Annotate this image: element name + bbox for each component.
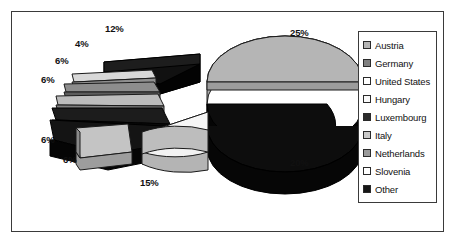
legend-label: Netherlands [375,148,425,159]
legend-label: Germany [375,58,413,69]
data-label-germany: 20% [290,157,309,168]
legend-label: Italy [375,130,392,141]
legend-swatch-icon [363,41,371,49]
legend-label: Slovenia [375,166,410,177]
legend-item-united-states[interactable]: United States [363,72,436,90]
legend-item-other[interactable]: Other [363,180,436,198]
legend-label: Other [375,184,398,195]
data-label-luxembourg: 6% [41,134,55,145]
legend-item-austria[interactable]: Austria [363,36,436,54]
data-label-other: 12% [105,23,124,34]
slice-austria-top [207,36,363,82]
data-label-slovenia: 4% [75,38,89,49]
legend-swatch-icon [363,149,371,157]
legend-label: Luxembourg [375,112,426,123]
legend-label: Austria [375,40,404,51]
legend-item-slovenia[interactable]: Slovenia [363,162,436,180]
data-label-united-states: 15% [140,177,159,188]
legend-item-luxembourg[interactable]: Luxembourg [363,108,436,126]
legend-swatch-icon [363,95,371,103]
slice-austria-band [207,82,363,90]
slice-hungary-block[interactable] [76,124,132,170]
legend-item-hungary[interactable]: Hungary [363,90,436,108]
legend-item-netherlands[interactable]: Netherlands [363,144,436,162]
legend-item-italy[interactable]: Italy [363,126,436,144]
chart-frame: 12% 4% 6% 6% 6% 6% 15% 25% 20% Austria G… [11,11,444,232]
data-label-italy: 6% [41,74,55,85]
legend-swatch-icon [363,77,371,85]
data-label-austria: 25% [290,27,309,38]
data-label-hungary: 6% [63,154,77,165]
legend-label: Hungary [375,94,410,105]
legend-item-germany[interactable]: Germany [363,54,436,72]
legend-swatch-icon [363,167,371,175]
legend-swatch-icon [363,59,371,67]
legend-swatch-icon [363,113,371,121]
legend-swatch-icon [363,131,371,139]
data-label-netherlands: 6% [55,55,69,66]
legend-label: United States [375,76,430,87]
legend: Austria Germany United States Hungary Lu… [358,31,437,203]
legend-swatch-icon [363,185,371,193]
pie-chart-screenshot: 12% 4% 6% 6% 6% 6% 15% 25% 20% Austria G… [0,0,460,246]
